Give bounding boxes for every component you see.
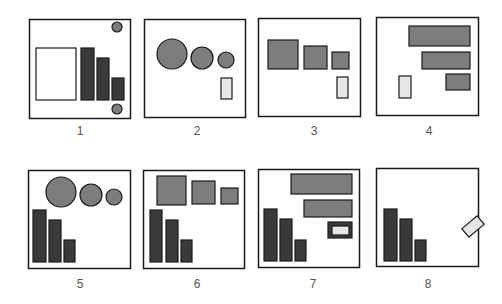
light-rect xyxy=(221,78,232,99)
panel-7 xyxy=(259,170,360,268)
bar-1 xyxy=(384,209,397,261)
square-small xyxy=(332,52,349,69)
hbar-3 xyxy=(446,74,470,90)
bar-1 xyxy=(264,209,277,261)
circle-small xyxy=(218,52,234,68)
hbar-1 xyxy=(409,26,470,46)
panel-label: 2 xyxy=(177,124,217,138)
circle-medium xyxy=(191,47,213,69)
panel-label: 6 xyxy=(177,277,217,291)
bar-3 xyxy=(415,240,426,261)
panel-label: 1 xyxy=(60,124,100,138)
bar-3 xyxy=(64,240,75,262)
circle-large xyxy=(46,177,76,207)
square-large xyxy=(268,40,298,69)
framed-light-rect-inner xyxy=(332,226,349,235)
panel-label: 5 xyxy=(60,277,100,291)
square-large xyxy=(157,176,186,205)
circle-medium xyxy=(80,184,102,206)
bar-2 xyxy=(97,58,109,100)
white-rect xyxy=(36,48,76,100)
panel-label: 4 xyxy=(409,124,449,138)
bar-2 xyxy=(280,219,292,261)
panel-label: 7 xyxy=(293,277,333,291)
square-medium xyxy=(192,181,215,204)
bar-1 xyxy=(81,48,94,100)
bar-1 xyxy=(150,210,162,262)
bar-3 xyxy=(181,240,192,262)
panel-label: 8 xyxy=(408,277,448,291)
circle-top xyxy=(112,22,122,32)
panel-3 xyxy=(259,19,361,117)
panel-8 xyxy=(377,169,485,267)
bar-2 xyxy=(166,220,178,262)
circle-large xyxy=(157,39,187,69)
panel-5 xyxy=(29,171,131,269)
bar-2 xyxy=(49,220,61,262)
bar-3 xyxy=(295,240,306,261)
panel-6 xyxy=(144,171,245,269)
circle-bottom xyxy=(112,104,122,114)
light-rect xyxy=(337,77,348,98)
bar-3 xyxy=(112,78,124,100)
hbar-2 xyxy=(304,200,352,217)
light-rect xyxy=(399,76,411,98)
panel-frame xyxy=(145,20,246,118)
square-small xyxy=(221,188,238,204)
panel-2 xyxy=(145,20,246,118)
diagram-canvas xyxy=(0,0,502,304)
hbar-1 xyxy=(291,174,352,194)
panel-4 xyxy=(377,18,479,116)
bar-1 xyxy=(33,210,46,262)
bar-2 xyxy=(400,219,412,261)
circle-small xyxy=(106,189,122,205)
panel-label: 3 xyxy=(294,124,334,138)
square-medium xyxy=(304,46,327,69)
panel-1 xyxy=(30,20,131,119)
hbar-2 xyxy=(422,52,470,69)
